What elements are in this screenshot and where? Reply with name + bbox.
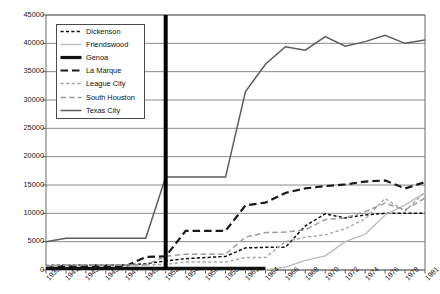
legend-label: League City — [86, 79, 125, 88]
legend-item-south-houston[interactable]: South Houston — [57, 90, 144, 103]
y-axis-tick-label: 20000 — [0, 152, 44, 160]
legend-item-texas-city[interactable]: Texas City — [57, 104, 144, 117]
legend-swatch-friendswood — [60, 39, 82, 50]
y-axis-ticks — [43, 15, 47, 270]
legend-label: La Marque — [86, 66, 121, 75]
legend-swatch-league-city — [60, 78, 82, 89]
legend-label: Genoa — [86, 53, 108, 62]
legend-swatch-genoa — [60, 52, 82, 63]
legend: DickensonFriendswoodGenoaLa MarqueLeague… — [56, 24, 145, 119]
y-axis-tick-label: 30000 — [0, 96, 44, 104]
legend-swatch-la-marque — [60, 65, 82, 76]
legend-item-genoa[interactable]: Genoa — [57, 51, 144, 64]
y-axis-tick-label: 0 — [0, 266, 44, 274]
legend-item-league-city[interactable]: League City — [57, 77, 144, 90]
legend-item-la-marque[interactable]: La Marque — [57, 64, 144, 77]
legend-label: Dickenson — [86, 27, 121, 36]
legend-label: South Houston — [86, 93, 135, 102]
y-axis-tick-label: 10000 — [0, 209, 44, 217]
series-line-dickenson — [46, 213, 425, 265]
series-line-friendswood — [46, 193, 425, 270]
series-line-league-city — [46, 192, 425, 266]
y-axis-tick-label: 40000 — [0, 39, 44, 47]
y-axis-tick-label: 5000 — [0, 237, 44, 245]
series-line-la-marque — [46, 180, 425, 266]
legend-swatch-south-houston — [60, 92, 82, 103]
y-axis-tick-label: 15000 — [0, 181, 44, 189]
legend-swatch-texas-city — [60, 105, 82, 116]
legend-label: Texas City — [86, 106, 120, 115]
legend-item-dickenson[interactable]: Dickenson — [57, 25, 144, 38]
legend-label: Friendswood — [86, 40, 128, 49]
y-axis-tick-label: 35000 — [0, 67, 44, 75]
legend-swatch-dickenson — [60, 26, 82, 37]
y-axis-tick-label: 25000 — [0, 124, 44, 132]
y-axis-tick-label: 45000 — [0, 11, 44, 19]
legend-item-friendswood[interactable]: Friendswood — [57, 38, 144, 51]
